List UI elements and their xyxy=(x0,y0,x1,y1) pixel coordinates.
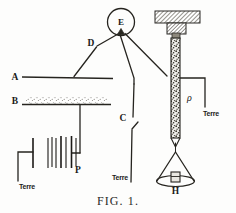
wire-d-to-plate-a xyxy=(74,47,97,77)
ground-label-right: Terre xyxy=(203,110,219,117)
wire-switch-lower-leg xyxy=(131,130,132,182)
ground-left-assembly: Terre xyxy=(18,138,35,190)
support-clamp-block xyxy=(155,11,200,39)
switch-c-label: C xyxy=(120,113,127,123)
wire-ground-left xyxy=(18,152,33,181)
ground-label-middle: Terre xyxy=(112,174,128,181)
figure-illustration: E D A B xyxy=(0,0,236,213)
switch-c-assembly: C Terre xyxy=(112,113,138,182)
figure-caption: FIG. 1. xyxy=(0,194,236,209)
plate-a-line xyxy=(22,77,113,79)
junction-d-label: D xyxy=(88,38,95,48)
spark-gap-assembly: E xyxy=(108,9,135,36)
ground-right-assembly: Terre xyxy=(180,78,219,117)
switch-c-lever xyxy=(132,122,138,129)
spark-gap-electrode-icon xyxy=(118,29,125,35)
tube-body xyxy=(171,38,180,138)
ground-label-left: Terre xyxy=(19,183,35,190)
clamp-neck xyxy=(167,23,186,34)
plate-a-label: A xyxy=(12,72,19,82)
burner-barrel xyxy=(171,172,180,182)
apparatus-diagram: E D A B xyxy=(0,0,236,213)
plate-b-label: B xyxy=(12,96,19,106)
wire-e-to-d xyxy=(97,34,118,46)
capacitor-p-label: P xyxy=(75,165,81,175)
clamp-upper-block xyxy=(155,11,200,23)
spark-gap-label: E xyxy=(118,17,124,27)
burner-h-assembly: H xyxy=(157,152,195,196)
figure-caption-text: FIG. 1. xyxy=(97,194,139,208)
wire-e-to-switch-branch xyxy=(120,35,134,85)
vertical-tube-assembly: ρ xyxy=(171,38,192,152)
capacitor-stack-p: P xyxy=(48,136,81,175)
wire-switch-upper-leg xyxy=(133,84,134,117)
wire-ground-right xyxy=(180,78,205,107)
plate-b-powder-layer xyxy=(26,98,107,104)
tube-rho-label: ρ xyxy=(186,92,192,103)
plate-a-assembly: A xyxy=(12,72,113,82)
